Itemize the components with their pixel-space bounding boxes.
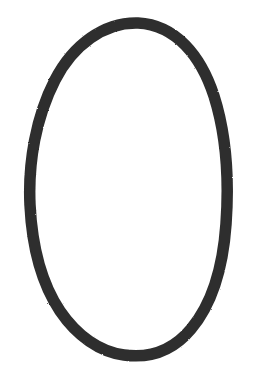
canvas-background <box>0 0 253 385</box>
drawing-canvas <box>0 0 253 385</box>
oval-drawing-svg <box>0 0 253 385</box>
